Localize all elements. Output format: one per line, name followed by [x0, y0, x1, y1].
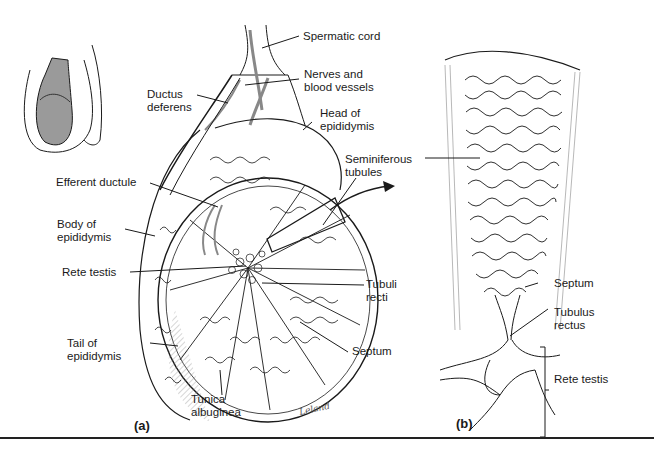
panel-tag-a: (a): [134, 418, 150, 433]
label-ductus-deferens: Ductusdeferens: [147, 88, 192, 114]
label-rete-testis-a: Rete testis: [62, 266, 116, 279]
label-tubuli-recti: Tubulirecti: [366, 278, 397, 304]
label-nerves-blood-vessels: Nerves andblood vessels: [304, 68, 374, 94]
label-tubulus-rectus: Tubulusrectus: [554, 306, 595, 332]
label-tunica-albuginea: Tunicaalbuginea: [191, 393, 241, 419]
label-seminiferous-tubules: Seminiferoustubules: [345, 153, 412, 179]
label-efferent-ductule: Efferent ductule: [56, 176, 136, 189]
label-septum-b: Septum: [554, 277, 594, 290]
label-rete-testis-b: Rete testis: [554, 373, 608, 386]
label-septum-a: Septum: [352, 345, 392, 358]
divider-rule: [0, 437, 654, 439]
location-inset: [24, 45, 101, 152]
panel-tag-b: (b): [456, 416, 473, 431]
label-head-of-epididymis: Head ofepididymis: [320, 107, 374, 133]
artist-signature: Leland: [297, 401, 331, 418]
label-body-of-epididymis: Body ofepididymis: [57, 218, 111, 244]
label-spermatic-cord: Spermatic cord: [303, 30, 380, 43]
label-tail-of-epididymis: Tail ofepididymis: [67, 337, 121, 363]
